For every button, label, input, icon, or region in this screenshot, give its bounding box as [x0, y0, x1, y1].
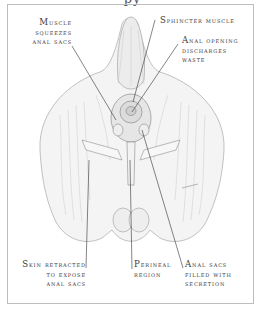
label-skin-retracted: Skin retracted to expose anal sacs: [14, 260, 86, 289]
label-perineal-region: Perineal region: [134, 260, 179, 279]
label-line: Sphincter muscle: [160, 16, 255, 26]
label-line: region: [134, 270, 179, 280]
label-line: anal sacs: [18, 37, 72, 47]
label-line: to expose: [14, 270, 86, 280]
label-muscle-squeezes: Muscle squeezes anal sacs: [18, 18, 72, 47]
label-line: secretion: [185, 279, 253, 289]
label-line: squeezes: [18, 28, 72, 38]
label-line: Muscle: [18, 18, 72, 28]
label-line: anal sacs: [14, 279, 86, 289]
label-sphincter-muscle: Sphincter muscle: [160, 16, 255, 26]
label-line: Perineal: [134, 260, 179, 270]
label-line: Anal sacs: [185, 260, 253, 270]
label-anal-opening: Anal opening discharges waste: [182, 36, 257, 65]
label-line: filled with: [185, 270, 253, 280]
label-anal-sacs-filled: Anal sacs filled with secretion: [185, 260, 253, 289]
perineal-strip: [127, 142, 135, 185]
label-line: discharges: [182, 46, 257, 56]
label-line: Anal opening: [182, 36, 257, 46]
label-line: waste: [182, 55, 257, 65]
label-line: Skin retracted: [14, 260, 86, 270]
